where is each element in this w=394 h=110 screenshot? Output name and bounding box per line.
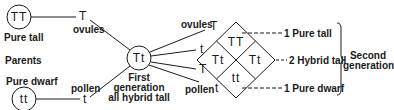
ovules-label-parent: ovules [73,24,105,35]
result-pure-tall: 1 Pure tall [284,28,332,39]
ovule-allele-2: t [200,43,203,55]
punnett-cell-right: Tt [243,54,267,66]
pollen-allele-2: t [215,82,218,94]
pure-dwarf-genotype: tt [12,93,36,105]
pollen-label-f1: pollen [185,84,214,95]
ovules-label-f1: ovules [181,19,213,30]
pure-tall-genotype: TT [7,11,31,23]
punnett-cell-left: Tt [206,54,230,66]
pure-tall-label: Pure tall [4,32,43,43]
result-hybrid-tall: 2 Hybrid tall [289,55,346,66]
parents-label: Parents [5,55,42,66]
ovule-allele-1: T [210,20,217,32]
punnett-cell-bottom: tt [224,72,248,84]
pollen-allele-parent: t [83,93,86,105]
pure-dwarf-label: Pure dwarf [6,76,58,87]
ovule-allele-parent: T [79,10,86,22]
second-generation-label-2: generation [343,60,393,71]
first-generation-label-3: all hybrid tall [104,92,174,103]
result-pure-dwarf: 1 Pure dwarf [284,83,344,94]
first-generation-genotype: Tt [127,52,151,64]
punnett-cell-top: TT [224,36,248,48]
